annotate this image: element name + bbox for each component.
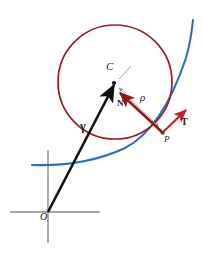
radius-label: ρ [140, 92, 145, 103]
position-vector-label: γ [80, 120, 86, 132]
center-point-marker [112, 81, 116, 85]
diagram-canvas [0, 0, 203, 259]
radius-measure-arrow [119, 88, 159, 127]
normal-vector-label: N [117, 99, 124, 108]
osculating-circle-diagram: C N ρ T P γ O [0, 0, 203, 259]
position-vector-arrow [48, 85, 114, 212]
origin-label: O [40, 212, 47, 222]
tangent-vector-label: T [181, 117, 188, 127]
point-p-label: P [164, 135, 170, 144]
center-label: C [106, 61, 113, 72]
center-tick-mark [119, 66, 131, 79]
